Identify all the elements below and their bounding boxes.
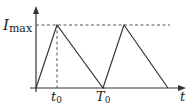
T0-label: T0 — [96, 89, 111, 105]
waveform-diagram: Imax t0 T0 t — [0, 0, 194, 107]
t0-label: t0 — [51, 89, 62, 105]
y-label: Imax — [2, 16, 33, 35]
y-axis-arrow-icon — [33, 6, 39, 14]
waveform — [36, 25, 168, 88]
x-label: t — [180, 89, 186, 104]
